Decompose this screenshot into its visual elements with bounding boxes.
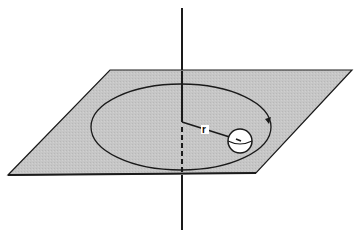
radius-label: r [202, 124, 206, 135]
plane [8, 70, 352, 175]
diagram-svg: r [0, 0, 355, 239]
orbit-diagram: r [0, 0, 355, 239]
